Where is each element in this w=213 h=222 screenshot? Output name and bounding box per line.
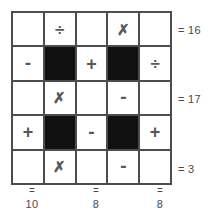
grid-cell-r2c2[interactable] xyxy=(77,82,109,116)
equals-icon: = xyxy=(140,186,180,195)
column-total-3: = 8 xyxy=(76,186,116,211)
grid-cell-r3c2[interactable]: - xyxy=(77,116,109,150)
divide-icon: ÷ xyxy=(150,55,159,72)
grid-cell-r4c4[interactable] xyxy=(140,151,172,185)
plus-icon: + xyxy=(23,123,34,141)
grid-cell-r3c1-blocked xyxy=(45,116,77,150)
row-total-1: = 16 xyxy=(178,24,201,36)
grid-cell-r1c1-blocked xyxy=(45,47,77,81)
equals-icon: = xyxy=(12,186,52,195)
grid-cell-r4c2[interactable] xyxy=(77,151,109,185)
grid-cell-r3c4[interactable]: + xyxy=(140,116,172,150)
grid-cell-r1c3-blocked xyxy=(108,47,140,81)
times-icon: ✗ xyxy=(117,22,130,37)
plus-icon: + xyxy=(150,123,161,141)
grid-cell-r0c2[interactable] xyxy=(77,13,109,47)
column-total-5: = 8 xyxy=(140,186,180,211)
column-total-value: 10 xyxy=(12,198,52,211)
grid-cell-r1c2[interactable]: + xyxy=(77,47,109,81)
grid-cell-r2c1[interactable]: ✗ xyxy=(45,82,77,116)
grid-cell-r4c1[interactable]: ✗ xyxy=(45,151,77,185)
row-total-5: = 3 xyxy=(178,163,195,175)
times-icon: ✗ xyxy=(53,159,66,174)
grid-cell-r0c4[interactable] xyxy=(140,13,172,47)
grid-cell-r0c3[interactable]: ✗ xyxy=(108,13,140,47)
minus-icon: - xyxy=(88,122,94,141)
grid-cell-r0c0[interactable] xyxy=(13,13,45,47)
column-total-value: 8 xyxy=(76,198,116,211)
minus-icon: - xyxy=(120,87,126,106)
minus-icon: - xyxy=(25,53,31,72)
grid-cell-r3c0[interactable]: + xyxy=(13,116,45,150)
equals-icon: = xyxy=(76,186,116,195)
column-total-1: = 10 xyxy=(12,186,52,211)
grid-cell-r2c0[interactable] xyxy=(13,82,45,116)
grid-cell-r3c3-blocked xyxy=(108,116,140,150)
arithmetic-grid-puzzle: ÷ ✗ - + ÷ ✗ - + - + ✗ - = 16 = 17 = 3 = … xyxy=(0,0,213,222)
times-icon: ✗ xyxy=(53,90,66,105)
plus-icon: + xyxy=(86,55,97,73)
puzzle-grid: ÷ ✗ - + ÷ ✗ - + - + ✗ - xyxy=(11,11,172,185)
minus-icon: - xyxy=(120,156,126,175)
grid-cell-r2c4[interactable] xyxy=(140,82,172,116)
grid-cell-r0c1[interactable]: ÷ xyxy=(45,13,77,47)
column-total-value: 8 xyxy=(140,198,180,211)
grid-cell-r1c4[interactable]: ÷ xyxy=(140,47,172,81)
grid-cell-r4c0[interactable] xyxy=(13,151,45,185)
grid-cell-r4c3[interactable]: - xyxy=(108,151,140,185)
row-total-3: = 17 xyxy=(178,93,201,105)
grid-cell-r2c3[interactable]: - xyxy=(108,82,140,116)
divide-icon: ÷ xyxy=(55,21,64,38)
grid-cell-r1c0[interactable]: - xyxy=(13,47,45,81)
